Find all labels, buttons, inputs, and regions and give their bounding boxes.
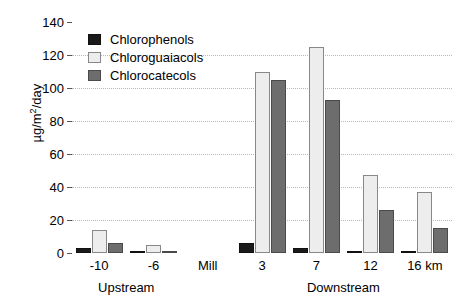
legend-swatch-icon — [88, 34, 101, 45]
bar — [239, 243, 254, 253]
x-tick-label: 7 — [313, 259, 320, 272]
bar-group — [293, 22, 340, 253]
y-tick-label: 100 — [42, 82, 64, 95]
y-tick-mark — [67, 220, 72, 221]
y-tick-mark — [67, 88, 72, 89]
y-tick-label: 120 — [42, 49, 64, 62]
bar — [325, 100, 340, 253]
y-tick-label: 20 — [50, 214, 64, 227]
bar — [433, 228, 448, 253]
y-tick-mark — [67, 121, 72, 122]
bar — [401, 251, 416, 253]
y-tick-label: 140 — [42, 16, 64, 29]
x-axis-region-label: Upstream — [98, 281, 154, 294]
legend-label: Chlorocatecols — [110, 69, 196, 82]
bar — [108, 243, 123, 253]
bar — [293, 248, 308, 253]
y-axis-title-exponent: 2 — [28, 108, 38, 113]
bar — [417, 192, 432, 253]
chart-legend: ChlorophenolsChloroguaiacolsChlorocateco… — [88, 30, 203, 84]
bar — [309, 47, 324, 253]
x-tick-label: -10 — [90, 259, 109, 272]
legend-label: Chloroguaiacols — [110, 51, 203, 64]
bar — [347, 251, 362, 253]
x-axis-region-label: Downstream — [307, 281, 380, 294]
legend-swatch-icon — [88, 70, 101, 81]
legend-swatch-icon — [88, 52, 101, 63]
bar — [379, 210, 394, 253]
legend-item: Chloroguaiacols — [88, 48, 203, 66]
x-tick-label: 16 km — [407, 259, 442, 272]
bar-group — [239, 22, 286, 253]
bar-chart: µg/m2/day 020406080100120140 -10-6Mill37… — [0, 0, 472, 307]
legend-label: Chlorophenols — [110, 33, 194, 46]
x-tick-label: -6 — [148, 259, 160, 272]
y-tick-mark — [67, 55, 72, 56]
y-axis-title-base: µg/m — [29, 113, 44, 142]
y-tick-mark — [67, 22, 72, 23]
bar-group — [347, 22, 394, 253]
y-tick-label: 40 — [50, 181, 64, 194]
y-tick-mark — [67, 154, 72, 155]
y-tick-label: 60 — [50, 148, 64, 161]
x-tick-label: Mill — [198, 259, 218, 272]
bar — [162, 251, 177, 253]
bar — [255, 72, 270, 254]
y-tick-mark — [67, 253, 72, 254]
legend-item: Chlorocatecols — [88, 66, 203, 84]
bar-group — [401, 22, 448, 253]
bar — [363, 175, 378, 253]
y-tick-label: 80 — [50, 115, 64, 128]
bar — [146, 245, 161, 253]
bar — [92, 230, 107, 253]
bar — [76, 248, 91, 253]
x-tick-label: 3 — [258, 259, 265, 272]
bar — [271, 80, 286, 253]
bar — [130, 251, 145, 253]
y-tick-mark — [67, 187, 72, 188]
legend-item: Chlorophenols — [88, 30, 203, 48]
y-tick-label: 0 — [57, 247, 64, 260]
x-tick-label: 12 — [363, 259, 377, 272]
